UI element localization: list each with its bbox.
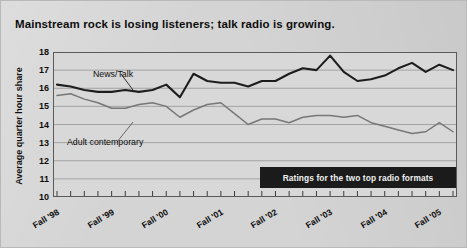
- y-axis-tick-label: 18: [33, 47, 49, 57]
- y-axis-title: Average quarter hour share: [10, 61, 28, 191]
- x-axis-tick-label: Fall '99: [86, 207, 116, 230]
- chart-title: Mainstream rock is losing listeners; tal…: [15, 18, 335, 30]
- chart-figure: Mainstream rock is losing listeners; tal…: [0, 0, 467, 248]
- x-axis-tick-label: Fall '01: [195, 207, 225, 230]
- y-axis-tick-label: 13: [33, 138, 49, 148]
- x-axis-tick-label: Fall '05: [413, 207, 443, 230]
- y-axis-tick-label: 14: [33, 120, 49, 130]
- y-axis-title-text: Average quarter hour share: [14, 67, 24, 185]
- y-axis-tick-labels: 181716151413121110: [31, 52, 49, 197]
- x-axis-tick-label: Fall '98: [31, 207, 61, 230]
- y-axis-tick-label: 12: [33, 156, 49, 166]
- y-axis-tick-label: 15: [33, 101, 49, 111]
- x-axis-tick-label: Fall '02: [249, 207, 279, 230]
- series-label-newstalk: News/Talk: [93, 69, 133, 79]
- x-axis-tick-label: Fall '03: [304, 207, 334, 230]
- chart-caption-box: Ratings for the two top radio formats: [261, 168, 455, 187]
- x-axis-tick-labels: Fall '98Fall '99Fall '00Fall '01Fall '02…: [53, 199, 463, 245]
- x-axis-tick-label: Fall '04: [359, 207, 389, 230]
- y-axis-tick-label: 17: [33, 65, 49, 75]
- y-axis-tick-label: 10: [33, 192, 49, 202]
- series-label-adultcontemporary: Adult contemporary: [67, 137, 143, 147]
- x-axis-tick-label: Fall '00: [140, 207, 170, 230]
- chart-caption-text: Ratings for the two top radio formats: [283, 173, 434, 183]
- y-axis-tick-label: 16: [33, 83, 49, 93]
- y-axis-tick-label: 11: [33, 174, 49, 184]
